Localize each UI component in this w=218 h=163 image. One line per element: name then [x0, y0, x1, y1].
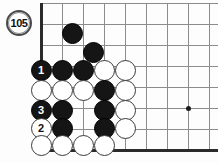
stone-white	[73, 80, 94, 101]
stone-white	[115, 80, 136, 101]
go-board-diagram: 132 105	[0, 0, 218, 163]
grid-line-horizontal	[41, 3, 218, 4]
move-number-label: 1	[38, 65, 44, 76]
stone-white	[31, 80, 52, 101]
stone-white	[115, 118, 136, 139]
stone-black	[94, 80, 115, 101]
grid-line-vertical	[209, 3, 210, 150]
stone-black	[62, 23, 83, 44]
stone-white	[94, 135, 115, 156]
grid-line-vertical	[167, 3, 168, 150]
stone-white	[52, 80, 73, 101]
star-point	[186, 106, 191, 111]
grid-line-vertical	[188, 3, 189, 150]
stone-black	[73, 60, 94, 81]
stone-white	[31, 135, 52, 156]
grid-line-vertical	[146, 3, 147, 150]
grid-line-horizontal	[41, 45, 218, 46]
move-number-label: 3	[38, 105, 44, 116]
diagram-number-badge: 105	[6, 10, 32, 36]
diagram-number-inner: 105	[8, 12, 30, 34]
stone-white	[73, 135, 94, 156]
stone-black	[52, 60, 73, 81]
stone-white	[52, 135, 73, 156]
stone-move-1: 1	[31, 60, 52, 81]
diagram-number-label: 105	[11, 17, 28, 29]
move-number-label: 2	[38, 123, 44, 134]
stone-white	[115, 60, 136, 81]
stone-white	[94, 60, 115, 81]
